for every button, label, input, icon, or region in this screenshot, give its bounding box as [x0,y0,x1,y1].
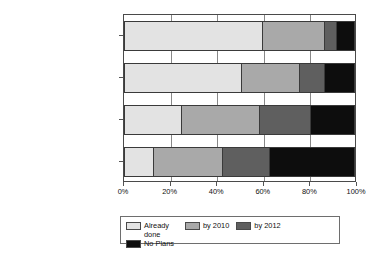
legend-item[interactable]: Already done [126,221,178,239]
bar-segment [325,21,337,51]
y-tick-mark [119,161,123,162]
x-axis-label: 80% [289,187,329,196]
bar-segment [124,21,263,51]
bar-segment [154,147,223,177]
bar-segment [260,105,311,135]
legend-swatch [126,222,141,230]
bar-segment [337,21,355,51]
stacked-bar-chart: Web check-inKiosk check-inCheck-in via m… [0,0,373,258]
bar-segment [124,63,242,93]
chart-legend: Already doneby 2010by 2012No Plans [120,216,340,244]
legend-swatch [236,222,251,230]
legend-item[interactable]: No Plans [126,239,174,248]
legend-label: No Plans [144,239,174,248]
bar-segment [124,105,182,135]
y-tick-mark [119,77,123,78]
legend-swatch [185,222,200,230]
bar-row [124,63,355,93]
legend-label: by 2012 [254,221,280,230]
legend-label: Already done [144,221,178,239]
bar-row [124,105,355,135]
bar-segment [325,63,355,93]
bar-segment [223,147,269,177]
legend-swatch [126,240,141,248]
x-axis-label: 20% [150,187,190,196]
plot-area [123,14,356,182]
bar-segment [182,105,261,135]
bar-segment [242,63,300,93]
x-tick-mark [123,182,124,186]
legend-item[interactable]: by 2012 [236,221,280,230]
bar-segment [124,147,154,177]
x-axis-label: 0% [103,187,143,196]
x-tick-mark [216,182,217,186]
bar-row [124,147,355,177]
bar-row [124,21,355,51]
legend-item[interactable]: by 2010 [185,221,229,230]
bar-series-container [124,15,355,181]
y-tick-mark [119,35,123,36]
x-tick-mark [309,182,310,186]
y-tick-mark [119,119,123,120]
x-axis-label: 40% [196,187,236,196]
bar-segment [311,105,355,135]
x-tick-mark [170,182,171,186]
x-tick-mark [263,182,264,186]
bar-segment [300,63,325,93]
x-axis-label: 60% [243,187,283,196]
x-axis-label: 100% [336,187,373,196]
bar-segment [270,147,355,177]
bar-segment [263,21,325,51]
x-tick-mark [356,182,357,186]
legend-items: Already doneby 2010by 2012No Plans [126,221,334,248]
legend-label: by 2010 [203,221,229,230]
